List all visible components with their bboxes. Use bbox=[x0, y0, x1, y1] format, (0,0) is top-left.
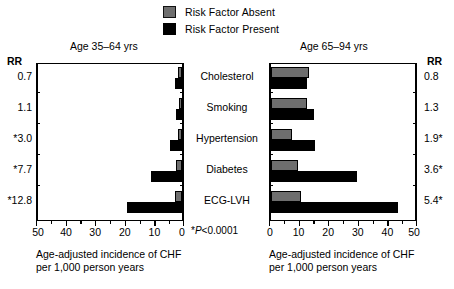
rr-value-right-smoking: 1.3 bbox=[424, 101, 439, 113]
ticklabel-right-4: 40 bbox=[382, 226, 394, 238]
rr-value-right-cholesterol: 0.8 bbox=[424, 70, 439, 82]
side-tick-rightinner-2 bbox=[269, 123, 273, 124]
axis-caption-left-line1: Age-adjusted incidence of CHF bbox=[36, 248, 181, 261]
legend-item-present: Risk Factor Present bbox=[163, 21, 363, 37]
significance-footnote: *P<0.0001 bbox=[191, 225, 238, 236]
tick-left-25 bbox=[110, 220, 111, 224]
panel-title-left: Age 35–64 yrs bbox=[70, 40, 138, 52]
tick-left-45 bbox=[51, 220, 52, 224]
category-label-cholesterol: Cholesterol bbox=[167, 70, 287, 82]
side-tick-right-3 bbox=[413, 154, 417, 155]
legend-label-absent: Risk Factor Absent bbox=[185, 6, 275, 18]
rr-value-right-hypertension: 1.9* bbox=[424, 132, 443, 144]
side-tick-leftinner-1 bbox=[180, 92, 184, 93]
footnote-threshold: <0.0001 bbox=[202, 225, 238, 236]
axis-caption-right: Age-adjusted incidence of CHF per 1,000 … bbox=[269, 248, 414, 273]
rr-value-left-cholesterol: 0.7 bbox=[2, 70, 32, 82]
legend-item-absent: Risk Factor Absent bbox=[163, 4, 363, 20]
category-label-ecg-lvh: ECG-LVH bbox=[167, 194, 287, 206]
panel-title-right: Age 65–94 yrs bbox=[300, 40, 368, 52]
ticklabel-right-2: 20 bbox=[322, 226, 334, 238]
rr-header-left: RR bbox=[7, 55, 22, 67]
side-tick-leftinner-2 bbox=[180, 123, 184, 124]
ticklabel-left-0: 50 bbox=[32, 226, 44, 238]
tick-left-5 bbox=[169, 220, 170, 224]
tick-right-5 bbox=[284, 220, 285, 224]
category-label-diabetes: Diabetes bbox=[167, 163, 287, 175]
ticklabel-left-5: 0 bbox=[179, 226, 185, 238]
ticklabel-right-0: 0 bbox=[267, 226, 273, 238]
plot-area-left bbox=[36, 63, 184, 220]
bar-right-present-ecg-lvh bbox=[271, 202, 398, 213]
black-square-icon bbox=[163, 23, 176, 35]
tick-left-35 bbox=[80, 220, 81, 224]
tick-right-45 bbox=[402, 220, 403, 224]
side-tick-left-4 bbox=[36, 185, 40, 186]
ticklabel-left-3: 20 bbox=[119, 226, 131, 238]
rr-value-right-diabetes: 3.6* bbox=[424, 163, 443, 175]
axis-caption-left: Age-adjusted incidence of CHF per 1,000 … bbox=[36, 248, 181, 273]
side-tick-leftinner-3 bbox=[180, 154, 184, 155]
rr-header-right: RR bbox=[427, 55, 442, 67]
category-label-hypertension: Hypertension bbox=[167, 132, 287, 144]
ticklabel-right-5: 50 bbox=[408, 226, 420, 238]
rr-value-left-ecg-lvh: *12.8 bbox=[2, 194, 32, 206]
ticklabel-left-4: 10 bbox=[149, 226, 161, 238]
tick-right-15 bbox=[313, 220, 314, 224]
side-tick-left-1 bbox=[36, 92, 40, 93]
rr-value-left-hypertension: *3.0 bbox=[2, 132, 32, 144]
rr-value-left-smoking: 1.1 bbox=[2, 101, 32, 113]
side-tick-right-2 bbox=[413, 123, 417, 124]
tick-right-35 bbox=[373, 220, 374, 224]
ticklabel-left-1: 40 bbox=[60, 226, 72, 238]
side-tick-left-3 bbox=[36, 154, 40, 155]
legend: Risk Factor Absent Risk Factor Present bbox=[163, 4, 363, 38]
side-tick-rightinner-1 bbox=[269, 92, 273, 93]
side-tick-rightinner-3 bbox=[269, 154, 273, 155]
side-tick-left-2 bbox=[36, 123, 40, 124]
ticklabel-right-1: 10 bbox=[293, 226, 305, 238]
side-tick-rightinner-4 bbox=[269, 185, 273, 186]
footnote-p-symbol: P bbox=[195, 225, 202, 236]
rr-value-left-diabetes: *7.7 bbox=[2, 163, 32, 175]
axis-caption-right-line1: Age-adjusted incidence of CHF bbox=[269, 248, 414, 261]
side-tick-right-4 bbox=[413, 185, 417, 186]
side-tick-leftinner-4 bbox=[180, 185, 184, 186]
axis-caption-right-line2: per 1,000 person years bbox=[269, 261, 414, 274]
gray-square-icon bbox=[163, 6, 176, 18]
ticklabel-right-3: 30 bbox=[352, 226, 364, 238]
plot-area-right bbox=[269, 63, 417, 220]
rr-value-right-ecg-lvh: 5.4* bbox=[424, 194, 443, 206]
tick-right-25 bbox=[343, 220, 344, 224]
figure-canvas: Risk Factor Absent Risk Factor Present A… bbox=[0, 0, 454, 289]
category-label-smoking: Smoking bbox=[167, 101, 287, 113]
tick-left-15 bbox=[140, 220, 141, 224]
axis-caption-left-line2: per 1,000 person years bbox=[36, 261, 181, 274]
ticklabel-left-2: 30 bbox=[89, 226, 101, 238]
side-tick-right-1 bbox=[413, 92, 417, 93]
legend-label-present: Risk Factor Present bbox=[185, 23, 279, 35]
